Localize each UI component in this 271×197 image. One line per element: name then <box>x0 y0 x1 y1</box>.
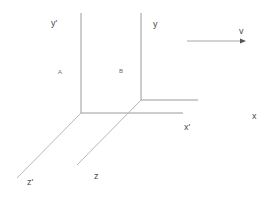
velocity-arrow <box>187 39 246 44</box>
label-v: v <box>239 27 244 36</box>
label-y-prime: y' <box>51 19 57 28</box>
label-z: z <box>94 172 99 181</box>
z-axis <box>77 100 141 165</box>
label-z-prime: z' <box>27 178 33 187</box>
label-point-b: B <box>119 68 123 74</box>
label-x-prime: x' <box>184 123 190 132</box>
label-point-a: A <box>58 69 62 75</box>
z-prime-axis <box>17 113 81 178</box>
label-y: y <box>153 20 158 29</box>
coordinate-frames-diagram <box>0 0 271 197</box>
arrow-head-icon <box>240 39 246 44</box>
label-x: x <box>252 112 257 121</box>
